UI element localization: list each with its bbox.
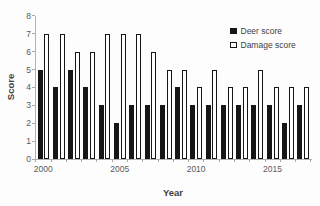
y-tick-label: 4 — [13, 82, 31, 92]
x-axis-tick — [96, 159, 97, 162]
x-axis-title: Year — [163, 187, 183, 198]
bar-deer-score-2005 — [114, 123, 119, 159]
x-axis-tick — [142, 159, 143, 162]
x-axis-tick — [127, 159, 128, 162]
bar-deer-score-2007 — [145, 105, 150, 159]
bar-deer-score-2010 — [190, 105, 195, 159]
bar-damage-score-2013 — [243, 87, 248, 159]
x-axis-tick — [265, 159, 266, 162]
bar-deer-score-2000 — [38, 70, 43, 160]
bar-damage-score-2002 — [75, 52, 80, 159]
bar-damage-score-2004 — [105, 34, 110, 159]
bar-deer-score-2012 — [221, 105, 226, 159]
y-axis-tick — [32, 87, 35, 88]
y-axis-tick — [32, 141, 35, 142]
bar-chart: 0123456782000200520102015 Score Year Dee… — [0, 0, 320, 206]
y-tick-label: 7 — [13, 29, 31, 39]
bar-damage-score-2017 — [304, 87, 309, 159]
bar-deer-score-2002 — [68, 70, 73, 160]
x-axis-tick — [280, 159, 281, 162]
deer-score-swatch-icon — [230, 28, 237, 35]
bar-deer-score-2003 — [83, 87, 88, 159]
y-axis-tick — [32, 51, 35, 52]
x-axis-tick — [66, 159, 67, 162]
y-axis-tick — [32, 33, 35, 34]
y-axis-tick — [32, 105, 35, 106]
y-axis-tick — [32, 123, 35, 124]
bar-damage-score-2014 — [258, 70, 263, 160]
bar-deer-score-2004 — [99, 105, 104, 159]
damage-score-swatch-icon — [230, 42, 237, 49]
bar-deer-score-2016 — [282, 123, 287, 159]
bar-damage-score-2003 — [90, 52, 95, 159]
y-axis-title: Score — [5, 74, 16, 100]
y-tick-label: 5 — [13, 65, 31, 75]
y-tick-label: 3 — [13, 100, 31, 110]
y-axis-tick — [32, 15, 35, 16]
x-tick-label-2010: 2010 — [180, 164, 212, 174]
bar-damage-score-2010 — [197, 87, 202, 159]
bar-deer-score-2011 — [206, 105, 211, 159]
y-tick-label: 1 — [13, 136, 31, 146]
x-axis-tick — [219, 159, 220, 162]
y-tick-label: 6 — [13, 47, 31, 57]
bar-deer-score-2015 — [267, 105, 272, 159]
bar-damage-score-2012 — [228, 87, 233, 159]
x-axis-tick — [234, 159, 235, 162]
y-tick-label: 8 — [13, 11, 31, 21]
bar-deer-score-2008 — [160, 105, 165, 159]
x-axis-tick — [203, 159, 204, 162]
x-axis-tick — [249, 159, 250, 162]
x-axis-tick — [173, 159, 174, 162]
x-axis-tick — [188, 159, 189, 162]
bar-damage-score-2016 — [289, 87, 294, 159]
bar-deer-score-2009 — [175, 87, 180, 159]
bar-deer-score-2013 — [236, 105, 241, 159]
bar-damage-score-2005 — [121, 34, 126, 159]
x-axis-tick — [51, 159, 52, 162]
y-axis-line — [35, 16, 36, 159]
legend-item-damage-score: Damage score — [230, 40, 296, 50]
x-axis-tick — [295, 159, 296, 162]
legend-item-deer-score: Deer score — [230, 26, 296, 36]
y-tick-label: 0 — [13, 154, 31, 164]
x-tick-label-2015: 2015 — [257, 164, 289, 174]
x-axis-tick — [81, 159, 82, 162]
y-tick-label: 2 — [13, 118, 31, 128]
bar-deer-score-2006 — [129, 105, 134, 159]
bar-damage-score-2001 — [60, 34, 65, 159]
bar-deer-score-2001 — [53, 87, 58, 159]
x-axis-tick — [35, 159, 36, 162]
x-axis-tick — [112, 159, 113, 162]
legend: Deer score Damage score — [230, 26, 296, 54]
bar-damage-score-2009 — [182, 70, 187, 160]
x-axis-tick — [158, 159, 159, 162]
bar-damage-score-2007 — [151, 52, 156, 159]
bar-deer-score-2017 — [297, 105, 302, 159]
legend-label-deer-score: Deer score — [241, 26, 283, 36]
x-tick-label-2005: 2005 — [104, 164, 136, 174]
x-tick-label-2000: 2000 — [27, 164, 59, 174]
y-axis-tick — [32, 69, 35, 70]
bar-damage-score-2000 — [44, 34, 49, 159]
bar-deer-score-2014 — [251, 105, 256, 159]
bar-damage-score-2006 — [136, 34, 141, 159]
legend-label-damage-score: Damage score — [241, 40, 296, 50]
bar-damage-score-2015 — [274, 87, 279, 159]
x-axis-tick — [310, 159, 311, 162]
bar-damage-score-2011 — [212, 70, 217, 160]
bar-damage-score-2008 — [167, 70, 172, 160]
